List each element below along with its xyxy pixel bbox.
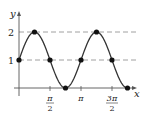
- x-tick-label-pi-over-2-num: π: [46, 94, 53, 103]
- data-point: [78, 57, 83, 62]
- x-tick-label-pi: π: [77, 94, 84, 103]
- data-point: [94, 29, 99, 34]
- marked-points: [16, 29, 130, 90]
- data-point: [47, 57, 52, 62]
- x-axis-label: x: [134, 88, 140, 99]
- x-tick-label-3pi-over-2-num: 3π: [107, 94, 118, 103]
- data-point: [32, 29, 37, 34]
- data-point: [125, 85, 130, 90]
- x-tick-label-3pi-over-2-den: 2: [109, 104, 114, 113]
- x-tick-label-pi-over-2-den: 2: [47, 104, 52, 113]
- data-point: [16, 57, 21, 62]
- data-point: [63, 85, 68, 90]
- data-point: [109, 57, 114, 62]
- y-tick-label-1: 1: [8, 55, 14, 66]
- chart: y x 2 1 π 2 π 3π 2: [0, 0, 148, 117]
- y-axis-label: y: [9, 8, 16, 19]
- y-tick-label-2: 2: [8, 27, 14, 38]
- y-axis-arrow-icon: [17, 11, 21, 16]
